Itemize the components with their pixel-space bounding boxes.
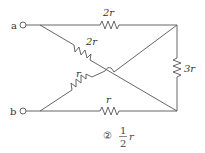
circuit-diagram: a 2r 2r 3r b r r ② 1 2 r — [0, 0, 205, 153]
answer-choice-symbol: ② — [103, 130, 112, 141]
resistor-top-2r — [40, 21, 177, 29]
answer-option: ② 1 2 r — [103, 125, 135, 149]
resistor-right-label: 3r — [184, 63, 196, 74]
terminal-a-node — [20, 22, 26, 28]
resistor-diag-a-label: 2r — [85, 36, 98, 47]
terminal-a-label: a — [11, 20, 17, 31]
resistor-bottom-label: r — [106, 94, 112, 105]
answer-denominator: 2 — [120, 138, 126, 149]
answer-numerator: 1 — [120, 125, 126, 136]
answer-variable: r — [129, 131, 135, 142]
resistor-right-3r — [173, 25, 181, 111]
terminal-b-label: b — [10, 106, 16, 117]
resistor-bottom-r — [40, 107, 177, 115]
resistor-top-label: 2r — [102, 7, 115, 18]
terminal-b-node — [20, 108, 26, 114]
